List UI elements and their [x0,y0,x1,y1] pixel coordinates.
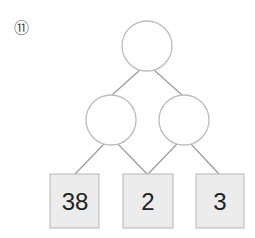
leaf-value-3: 3 [213,188,226,215]
middle-node-right-circle[interactable] [159,95,209,145]
leaf-value-1: 38 [62,188,89,215]
factor-tree-diagram: 38 2 3 [0,0,255,238]
middle-node-left-circle[interactable] [86,95,136,145]
top-node-circle[interactable] [122,21,172,71]
leaf-value-2: 2 [141,188,154,215]
